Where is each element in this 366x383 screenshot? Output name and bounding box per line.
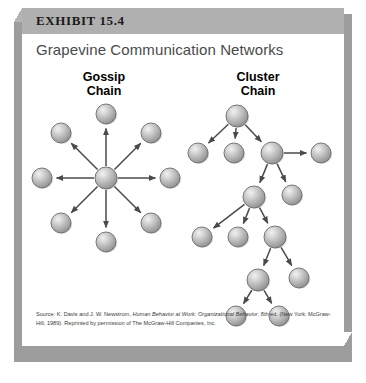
network-node-b xyxy=(188,143,208,163)
network-node-c xyxy=(224,143,244,163)
edge-j-to-k xyxy=(264,248,271,265)
gossip-heading-line1: Gossip xyxy=(83,70,125,84)
edge-hub-to-sw xyxy=(71,186,97,212)
column-heading-cluster-chain: Cluster Chain xyxy=(198,70,318,98)
network-node-i xyxy=(228,227,248,247)
network-node-se xyxy=(141,213,161,233)
node-layer xyxy=(32,104,181,253)
network-node-l xyxy=(289,268,309,288)
network-node-hub xyxy=(95,167,117,189)
edge-k-to-m xyxy=(244,290,252,303)
edge-hub-to-nw xyxy=(71,143,97,169)
network-node-a xyxy=(226,105,248,127)
edge-a-to-c xyxy=(235,128,236,139)
gossip-chain-diagram xyxy=(28,100,186,260)
network-node-s xyxy=(96,232,116,252)
edge-d-to-f xyxy=(260,164,268,183)
edge-a-to-d xyxy=(245,125,261,142)
edge-k-to-n xyxy=(264,290,272,303)
network-node-e xyxy=(311,143,331,163)
exhibit-figure: EXHIBIT 15.4 Grapevine Communication Net… xyxy=(0,0,366,383)
edge-d-to-g xyxy=(277,164,286,182)
network-node-k xyxy=(247,269,269,291)
bevel-top-left xyxy=(14,8,22,22)
bevel-bottom-right xyxy=(344,332,352,346)
network-node-ne xyxy=(141,123,161,143)
edge-j-to-l xyxy=(281,247,292,265)
source-line1-suffix: , 8th ed. xyxy=(258,311,278,317)
network-node-f xyxy=(243,186,265,208)
network-node-e xyxy=(160,168,180,188)
edge-f-to-i xyxy=(243,208,249,223)
network-node-w xyxy=(32,168,52,188)
exhibit-title: Grapevine Communication Networks xyxy=(36,41,283,58)
edge-a-to-b xyxy=(209,124,229,143)
network-node-n xyxy=(96,104,116,124)
network-node-j xyxy=(264,226,286,248)
edge-f-to-j xyxy=(260,208,268,224)
network-node-g xyxy=(282,185,302,205)
node-layer xyxy=(188,105,332,327)
gossip-heading-line2: Chain xyxy=(87,84,122,98)
source-line1-italic: Human Behavior at Work: Organizational B… xyxy=(132,311,257,317)
exhibit-number-label: EXHIBIT 15.4 xyxy=(36,13,125,29)
edge-f-to-h xyxy=(213,204,244,228)
edge-hub-to-ne xyxy=(114,143,140,169)
source-line1-prefix: Source: K. Davis and J. W. Newstrom, xyxy=(36,311,132,317)
network-node-sw xyxy=(51,213,71,233)
column-heading-gossip-chain: Gossip Chain xyxy=(44,70,164,98)
network-node-nw xyxy=(51,123,71,143)
source-note: Source: K. Davis and J. W. Newstrom, Hum… xyxy=(36,310,332,328)
cluster-heading-line1: Cluster xyxy=(236,70,279,84)
exhibit-card: EXHIBIT 15.4 Grapevine Communication Net… xyxy=(22,8,344,346)
network-node-h xyxy=(192,227,212,247)
network-node-d xyxy=(261,142,283,164)
cluster-heading-line2: Chain xyxy=(241,84,276,98)
cluster-chain-diagram xyxy=(182,100,338,340)
edge-hub-to-se xyxy=(114,186,140,212)
